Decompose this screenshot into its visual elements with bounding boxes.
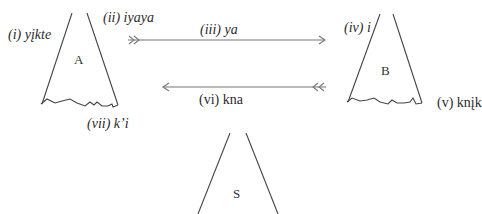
tipi-s-letter: S xyxy=(233,186,240,202)
label-v: (v) knįk xyxy=(437,96,482,110)
label-vii: (vii) k’i xyxy=(87,117,129,131)
label-i: (i) yįkte xyxy=(8,28,51,42)
label-vi: (vi) kna xyxy=(199,93,243,107)
arrow-a-to-b xyxy=(128,36,325,44)
label-iii: (iii) ya xyxy=(200,23,238,37)
arrow-b-to-a xyxy=(163,83,326,91)
tipi-b-letter: B xyxy=(381,63,390,79)
label-iv: (iv) i xyxy=(344,21,371,35)
label-ii: (ii) iyaya xyxy=(103,11,154,25)
tipi-a-letter: A xyxy=(74,52,83,68)
